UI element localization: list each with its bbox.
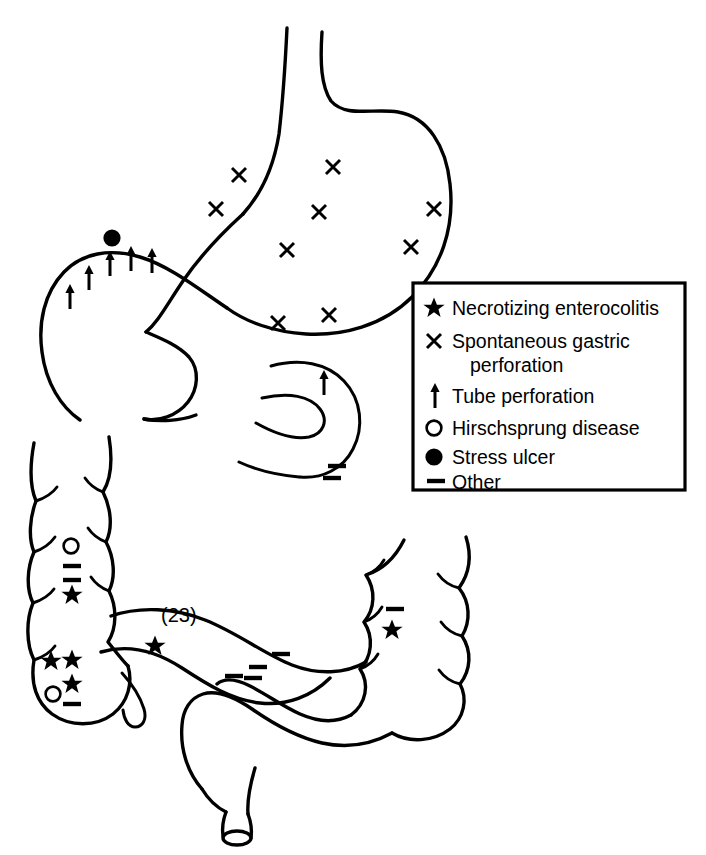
- marker-x: [404, 240, 418, 254]
- marker-arrow: [105, 251, 114, 276]
- legend-group: Necrotizing enterocolitis Spontaneous ga…: [413, 283, 685, 493]
- jejunum-outline: [239, 362, 360, 477]
- marker-open-circle: [64, 539, 79, 554]
- marker-star: [61, 674, 82, 693]
- gi-tract-diagram: (23) Necrotizing enterocolitis Spontaneo…: [0, 0, 706, 855]
- descending-colon-outline: [351, 537, 469, 740]
- markers-hirschsprung-disease: [46, 539, 79, 702]
- ileum-outline: [101, 610, 366, 704]
- marker-filled-circle: [103, 229, 120, 246]
- marker-x: [271, 316, 285, 330]
- ascending-colon-outline: [28, 437, 145, 727]
- stomach-count-annotation: (23): [161, 604, 197, 626]
- marker-arrow: [65, 284, 74, 309]
- legend-label-spontaneous-gastric-perforation-line2: perforation: [470, 354, 563, 376]
- marker-x: [209, 202, 223, 216]
- stomach-outline: [146, 28, 451, 334]
- legend-label-necrotizing-enterocolitis: Necrotizing enterocolitis: [452, 297, 659, 319]
- marker-star: [61, 650, 82, 669]
- marker-arrow: [126, 246, 135, 271]
- marker-star: [381, 620, 402, 639]
- markers-stress-ulcer: [103, 229, 120, 246]
- legend-label-hirschsprung-disease: Hirschsprung disease: [452, 417, 640, 439]
- marker-star: [61, 585, 82, 604]
- marker-open-circle: [46, 687, 61, 702]
- marker-x: [427, 202, 441, 216]
- marker-arrow: [84, 265, 93, 290]
- marker-x: [312, 205, 326, 219]
- marker-x: [280, 243, 294, 257]
- marker-x: [322, 308, 336, 322]
- marker-arrow: [319, 370, 328, 395]
- legend-label-tube-perforation: Tube perforation: [452, 385, 594, 407]
- figure-root: (23) Necrotizing enterocolitis Spontaneo…: [0, 0, 706, 855]
- duodenum-outline: [41, 253, 227, 421]
- legend-label-other: Other: [452, 471, 501, 493]
- legend-filled-circle-icon: [425, 448, 442, 465]
- legend-label-spontaneous-gastric-perforation: Spontaneous gastric: [452, 330, 630, 352]
- legend-open-circle-icon: [427, 421, 442, 436]
- marker-star: [40, 651, 61, 670]
- legend-label-stress-ulcer: Stress ulcer: [452, 446, 555, 468]
- marker-x: [326, 160, 340, 174]
- markers-necrotizing-enterocolitis: [40, 585, 402, 693]
- marker-x: [232, 168, 246, 182]
